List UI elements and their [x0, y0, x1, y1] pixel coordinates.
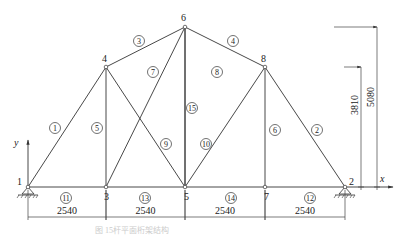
member-labels: 123456789101112131415 — [50, 36, 323, 204]
node-2 — [343, 185, 347, 189]
node-6 — [183, 25, 187, 29]
member-label-14: 14 — [226, 193, 237, 204]
svg-text:9: 9 — [164, 140, 168, 149]
member-label-2: 2 — [312, 125, 323, 136]
member-label-4: 4 — [228, 36, 239, 47]
member-10 — [185, 67, 265, 187]
dimension-label: 2540 — [295, 205, 315, 216]
truss-diagram: y x 254025402540254038105080 12345678 12… — [0, 0, 405, 237]
dimension-label: 3810 — [349, 95, 360, 115]
dimension-label: 5080 — [365, 87, 376, 107]
member-3 — [106, 27, 185, 67]
node-label-3: 3 — [104, 191, 109, 202]
svg-text:1: 1 — [53, 124, 57, 133]
member-label-11: 11 — [61, 193, 72, 204]
node-label-8: 8 — [261, 53, 266, 64]
member-label-13: 13 — [140, 193, 151, 204]
svg-text:4: 4 — [231, 37, 235, 46]
svg-text:15: 15 — [188, 104, 196, 113]
dimension-label: 2540 — [215, 205, 235, 216]
node-1 — [26, 185, 30, 189]
node-label-2: 2 — [349, 176, 354, 187]
member-label-9: 9 — [161, 139, 172, 150]
svg-text:2: 2 — [315, 126, 319, 135]
node-8 — [263, 65, 267, 69]
node-7 — [263, 185, 267, 189]
svg-text:12: 12 — [306, 194, 314, 203]
truss-nodes: 12345678 — [17, 12, 354, 202]
member-9 — [106, 67, 185, 187]
svg-text:8: 8 — [215, 68, 219, 77]
member-label-7: 7 — [148, 67, 159, 78]
member-8 — [106, 27, 185, 187]
dimension-label: 2540 — [57, 205, 77, 216]
svg-text:5: 5 — [95, 124, 99, 133]
member-label-10: 10 — [201, 139, 212, 150]
svg-text:6: 6 — [273, 126, 277, 135]
svg-text:11: 11 — [62, 194, 70, 203]
node-3 — [104, 185, 108, 189]
svg-text:14: 14 — [227, 194, 235, 203]
node-5 — [183, 185, 187, 189]
svg-text:13: 13 — [141, 194, 149, 203]
figure-caption: 图 15杆平面桁架结构 — [95, 225, 169, 235]
x-axis-label: x — [379, 173, 385, 184]
node-4 — [104, 65, 108, 69]
svg-text:10: 10 — [202, 140, 210, 149]
svg-text:7: 7 — [151, 68, 155, 77]
dimension-lines: 254025402540254038105080 — [28, 27, 380, 220]
member-label-12: 12 — [305, 193, 316, 204]
member-label-8: 8 — [212, 67, 223, 78]
member-label-5: 5 — [92, 123, 103, 134]
node-label-6: 6 — [181, 12, 186, 23]
node-label-5: 5 — [184, 191, 189, 202]
member-4 — [185, 27, 265, 67]
member-label-1: 1 — [50, 123, 61, 134]
svg-text:3: 3 — [137, 37, 141, 46]
node-label-4: 4 — [102, 53, 107, 64]
dimension-label: 2540 — [136, 205, 156, 216]
member-label-6: 6 — [270, 125, 281, 136]
node-label-7: 7 — [264, 191, 269, 202]
member-label-3: 3 — [134, 36, 145, 47]
node-label-1: 1 — [17, 176, 22, 187]
member-label-15: 15 — [187, 103, 198, 114]
y-axis-label: y — [13, 137, 19, 148]
